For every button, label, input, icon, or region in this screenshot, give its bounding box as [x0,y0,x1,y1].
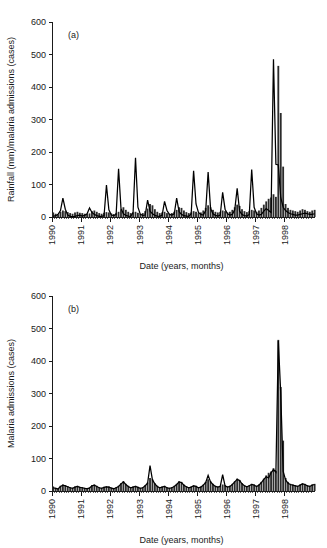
y-tick-label: 500 [31,324,46,334]
x-tick-label: 1992 [105,225,115,245]
trend-line [53,341,314,489]
x-axis-title: Date (years, months) [139,261,223,271]
bar [176,210,178,217]
bar [108,212,110,217]
panel-b-svg: 0100200300400500600Malaria admissions (c… [0,274,327,548]
x-tick-label: 1998 [280,499,290,519]
bar [273,468,275,491]
panel-tag: (a) [68,30,79,40]
bar [147,209,149,217]
bar [166,213,168,217]
bar [294,211,296,217]
y-tick-label: 500 [31,50,46,60]
trend-line [53,59,314,216]
y-tick-label: 200 [31,421,46,431]
y-tick-label: 300 [31,389,46,399]
bar [149,478,151,491]
panel-b-content: 0100200300400500600Malaria admissions (c… [6,291,316,545]
bar [224,211,226,217]
x-tick-label: 1997 [251,225,261,245]
y-tick-label: 100 [31,454,46,464]
panel-a-svg: 0100200300400500600Rainfall (mm)/malaria… [0,0,327,274]
x-tick-label: 1995 [193,499,203,519]
bar [236,205,238,217]
bar [118,212,120,217]
bar [273,194,275,217]
y-tick-label: 600 [31,291,46,301]
x-tick-label: 1990 [47,499,57,519]
figure-malaria-rainfall: 0100200300400500600Rainfall (mm)/malaria… [0,0,327,548]
bar [260,208,262,217]
x-tick-label: 1993 [135,499,145,519]
bar [282,167,284,217]
bar [268,199,270,217]
bar [222,485,224,492]
y-tick-label: 0 [41,486,46,496]
x-tick-label: 1991 [76,499,86,519]
x-tick-label: 1993 [135,225,145,245]
bar [207,205,209,217]
bar [152,205,154,217]
bar [222,211,224,218]
bar [251,210,253,217]
bar [193,211,195,217]
y-tick-label: 600 [31,17,46,27]
x-axis-title: Date (years, months) [139,535,223,545]
bar [52,486,54,491]
chart-panel-a: 0100200300400500600Rainfall (mm)/malaria… [0,0,327,274]
x-tick-label: 1994 [164,499,174,519]
panel-tag: (b) [68,304,79,314]
x-tick-label: 1994 [164,225,174,245]
bar [207,479,209,491]
x-tick-label: 1997 [251,499,261,519]
y-tick-label: 400 [31,82,46,92]
bar [135,212,137,217]
bar [277,66,279,217]
bar [89,213,91,217]
bar [137,213,139,217]
bar [195,212,197,217]
x-tick-label: 1996 [222,499,232,519]
x-tick-label: 1991 [76,225,86,245]
bar [106,212,108,217]
x-tick-label: 1995 [193,225,203,245]
bar [62,211,64,218]
y-tick-label: 0 [41,212,46,222]
x-tick-label: 1990 [47,225,57,245]
bar [258,211,260,218]
y-axis-title: Rainfall (mm)/malaria admissions (cases) [6,37,16,202]
chart-panel-b: 0100200300400500600Malaria admissions (c… [0,274,327,548]
bar [275,197,277,217]
y-tick-label: 200 [31,147,46,157]
x-tick-label: 1996 [222,225,232,245]
y-tick-label: 400 [31,356,46,366]
y-tick-label: 100 [31,180,46,190]
bar [275,471,277,491]
y-axis-title: Malaria admissions (cases) [6,339,16,448]
x-tick-label: 1992 [105,499,115,519]
bar [181,208,183,217]
bar [164,212,166,217]
panel-a-content: 0100200300400500600Rainfall (mm)/malaria… [6,17,316,271]
bar [253,211,255,218]
y-tick-label: 300 [31,115,46,125]
bar-series [52,66,315,217]
x-tick-label: 1998 [280,225,290,245]
